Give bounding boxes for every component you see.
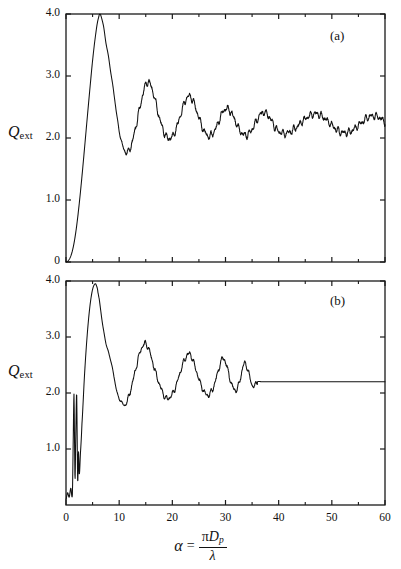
- x-axis-label: α = πDp λ: [0, 530, 401, 563]
- y-tick-label: 0: [26, 254, 60, 266]
- formula-D: D: [209, 529, 219, 544]
- y-tick-label: 4.0: [26, 273, 60, 285]
- formula-equals: =: [187, 538, 195, 554]
- x-tick-label: 20: [157, 511, 187, 523]
- formula-numerator: πDp: [199, 530, 227, 547]
- x-axis-formula: α = πDp λ: [174, 530, 226, 563]
- formula-D-subscript: p: [219, 535, 224, 545]
- figure-root: Qext Qext (a) (b) α = πDp λ 01.02.03.04.…: [0, 0, 401, 569]
- x-tick-label: 10: [104, 511, 134, 523]
- y-tick-label: 2.0: [26, 130, 60, 142]
- y-tick-label: 3.0: [26, 329, 60, 341]
- x-tick-label: 50: [317, 511, 347, 523]
- panel-a-plot: [66, 14, 385, 262]
- formula-fraction: πDp λ: [199, 530, 227, 563]
- y-tick-label: 1.0: [26, 441, 60, 453]
- x-tick-label: 30: [211, 511, 241, 523]
- panel-b-plot: [66, 281, 385, 505]
- y-tick-label: 4.0: [26, 6, 60, 18]
- formula-denominator: λ: [207, 548, 219, 563]
- y-tick-label: 2.0: [26, 385, 60, 397]
- x-tick-label: 60: [370, 511, 400, 523]
- formula-pi: π: [202, 529, 209, 544]
- y-tick-label: 3.0: [26, 68, 60, 80]
- y-tick-label: 1.0: [26, 192, 60, 204]
- x-tick-label: 0: [51, 511, 81, 523]
- plot-canvas: [0, 0, 401, 569]
- x-tick-label: 40: [264, 511, 294, 523]
- formula-alpha: α: [174, 537, 182, 555]
